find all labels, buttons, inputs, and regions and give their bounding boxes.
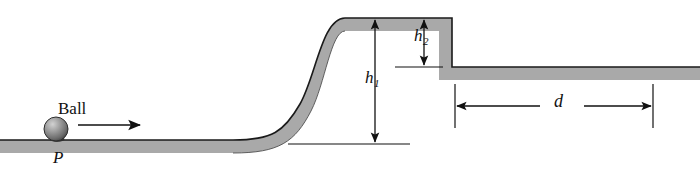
point-p-label: P (53, 149, 63, 166)
h2-label-base: h (414, 26, 423, 45)
ball-sphere (44, 117, 68, 141)
h2-label: h2 (414, 27, 429, 47)
h1-label: h1 (365, 69, 380, 89)
track-fill (0, 18, 700, 153)
physics-diagram-ball-on-track: Ball P h1 h2 d (0, 0, 700, 173)
d-label: d (554, 92, 563, 110)
ball-label: Ball (58, 100, 86, 117)
h1-label-base: h (365, 68, 374, 87)
h2-label-subscript: 2 (423, 35, 429, 47)
diagram-canvas (0, 0, 700, 173)
h1-dimension (288, 20, 410, 144)
h1-label-subscript: 1 (374, 77, 380, 89)
track-shape (0, 18, 700, 153)
ball-icon (44, 117, 68, 142)
